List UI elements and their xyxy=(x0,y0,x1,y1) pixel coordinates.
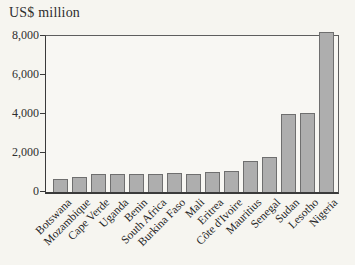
bar-botswana xyxy=(53,179,68,192)
y-tick-mark-6000 xyxy=(40,74,45,75)
bar-cape-verde xyxy=(91,174,106,193)
bar-mozambique xyxy=(72,177,87,192)
bar-eritrea xyxy=(205,172,220,193)
bar-chart-figure: US$ million 02,0004,0006,0008,000 Botswa… xyxy=(0,0,355,265)
y-tick-label-6000: 6,000 xyxy=(0,67,39,81)
bar-burkina-faso xyxy=(167,173,182,192)
y-tick-mark-4000 xyxy=(40,113,45,114)
bar-benin xyxy=(129,174,144,193)
bar-mali xyxy=(186,174,201,193)
bar-mauritius xyxy=(243,161,258,192)
bar-lesotho xyxy=(300,113,315,192)
plot-area xyxy=(45,35,339,194)
y-tick-label-0: 0 xyxy=(0,184,39,198)
bar-south-africa xyxy=(148,174,163,192)
y-tick-label-2000: 2,000 xyxy=(0,145,39,159)
bar-nigeria xyxy=(319,32,334,192)
y-tick-label-4000: 4,000 xyxy=(0,106,39,120)
y-tick-mark-8000 xyxy=(40,35,45,36)
bar-c-te-d-ivoire xyxy=(224,171,239,192)
y-tick-mark-2000 xyxy=(40,152,45,153)
y-axis-unit-label: US$ million xyxy=(9,5,80,21)
bar-senegal xyxy=(262,157,277,192)
y-tick-label-8000: 8,000 xyxy=(0,28,39,42)
y-tick-mark-0 xyxy=(40,191,45,192)
bar-uganda xyxy=(110,174,125,192)
bar-sudan xyxy=(281,114,296,192)
